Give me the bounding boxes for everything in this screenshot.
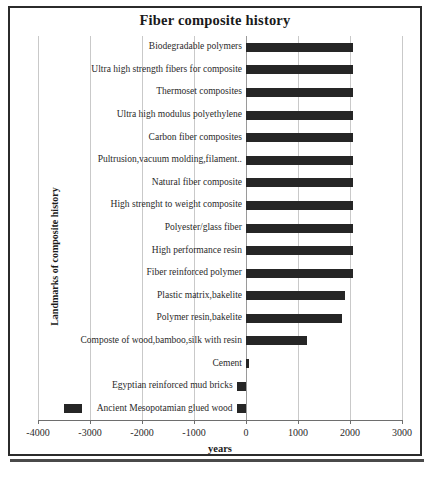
tick-mark--1000 xyxy=(194,420,195,424)
y-axis-title: Landmarks of composite history xyxy=(49,157,60,357)
bar xyxy=(246,43,353,52)
tick-label-2000: 2000 xyxy=(320,427,380,438)
tick-mark-2000 xyxy=(350,420,351,424)
tick-label--4000: -4000 xyxy=(8,427,68,438)
bar xyxy=(246,65,353,74)
category-label: Fiber reinforced polymer xyxy=(0,267,242,278)
bar xyxy=(246,201,353,210)
category-label: Biodegradable polymers xyxy=(0,41,242,52)
category-label: Natural fiber composite xyxy=(0,177,242,188)
bar xyxy=(246,88,353,97)
bar xyxy=(246,178,353,187)
bar xyxy=(246,359,249,368)
tick-label-1000: 1000 xyxy=(268,427,328,438)
bar xyxy=(246,269,353,278)
category-label: Pultrusion,vacuum molding,filament.. xyxy=(0,154,242,165)
bar xyxy=(246,133,353,142)
category-label: Cement xyxy=(0,358,242,369)
bar xyxy=(246,314,342,323)
bar xyxy=(246,336,307,345)
category-label: Egyptian reinforced mud bricks xyxy=(0,380,233,391)
category-label: Ultra high strength fibers for composite xyxy=(0,64,242,75)
tick-mark--4000 xyxy=(38,420,39,424)
chart-title: Fiber composite history xyxy=(8,12,422,29)
tick-mark-0 xyxy=(246,420,247,424)
tick-label-3000: 3000 xyxy=(372,427,432,438)
tick-mark--2000 xyxy=(142,420,143,424)
bar xyxy=(237,404,246,413)
category-label: High performance resin xyxy=(0,245,242,256)
x-axis-title: years xyxy=(38,443,402,454)
gridline-3000 xyxy=(402,36,403,420)
plot-area: Biodegradable polymersUltra high strengt… xyxy=(38,36,402,420)
category-label: Plastic matrix,bakelite xyxy=(0,290,242,301)
bar xyxy=(246,156,353,165)
tick-label--2000: -2000 xyxy=(112,427,172,438)
figure-border-shadow xyxy=(10,459,424,462)
category-label: Ancient Mesopotamian glued wood xyxy=(0,403,233,414)
bar xyxy=(246,224,353,233)
bar xyxy=(246,246,353,255)
tick-label-0: 0 xyxy=(216,427,276,438)
category-label: High strenght to weight composite xyxy=(0,199,242,210)
category-label: Polymer resin,bakelite xyxy=(0,312,242,323)
x-axis-line xyxy=(38,420,403,421)
bar xyxy=(246,291,345,300)
category-label: Carbon fiber composites xyxy=(0,132,242,143)
tick-mark-3000 xyxy=(402,420,403,424)
bar xyxy=(246,111,353,120)
tick-label--3000: -3000 xyxy=(60,427,120,438)
tick-label--1000: -1000 xyxy=(164,427,224,438)
category-label: Ultra high modulus polyethylene xyxy=(0,109,242,120)
tick-mark--3000 xyxy=(90,420,91,424)
category-label: Composte of wood,bamboo,silk with resin xyxy=(0,335,242,346)
category-label: Thermoset composites xyxy=(0,86,242,97)
category-label: Polyester/glass fiber xyxy=(0,222,242,233)
bar xyxy=(237,382,246,391)
tick-mark-1000 xyxy=(298,420,299,424)
chart-figure: Fiber composite history Biodegradable po… xyxy=(0,0,432,482)
